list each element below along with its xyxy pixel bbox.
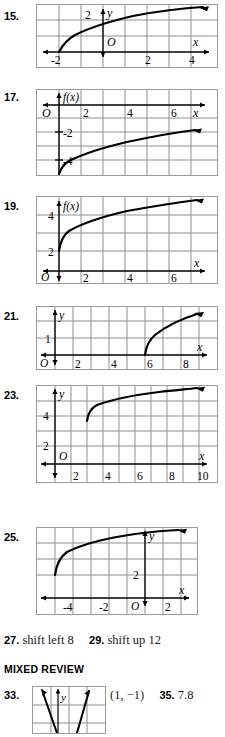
answers-27-29-row: 27. shift left 8 29. shift up 12 xyxy=(4,633,161,648)
x-tick-label-2: 2 xyxy=(73,470,79,482)
x-tick-label-neg4: -4 xyxy=(63,601,73,613)
exercise-33-svg: y xyxy=(33,687,105,733)
answers-33-35-text: (1, −1) 35. 7.8 xyxy=(110,688,193,703)
x-axis-label: x xyxy=(198,449,205,463)
exercise-25-svg: y O x 2 -4 -2 2 xyxy=(37,528,197,614)
answer-33-number-wrap: 33. xyxy=(4,688,19,703)
exercise-25-number: 25. xyxy=(4,531,19,543)
exercise-21-number: 21. xyxy=(4,310,19,322)
axes xyxy=(43,201,205,281)
answer-27-number: 27. xyxy=(4,634,19,646)
x-tick-label-6: 6 xyxy=(137,470,143,482)
exercise-17-number: 17. xyxy=(4,91,19,103)
y-axis-label: y xyxy=(58,308,65,322)
y-tick-label-4: 4 xyxy=(48,210,54,222)
x-axis-label: x xyxy=(196,340,203,354)
x-tick-label-6: 6 xyxy=(147,358,153,369)
answer-29-number: 29. xyxy=(89,634,104,646)
origin-label-O: O xyxy=(40,357,49,369)
x-tick-label-4: 4 xyxy=(127,107,133,119)
x-tick-label-4: 4 xyxy=(189,54,195,66)
x-tick-label-2: 2 xyxy=(165,601,171,613)
origin-label-O: O xyxy=(59,450,68,462)
y-tick-label-neg4: -4 xyxy=(63,155,73,167)
exercise-33-graph: y xyxy=(32,686,106,734)
exercise-23: 23. xyxy=(4,385,222,485)
mixed-review-heading: MIXED REVIEW xyxy=(4,663,84,675)
exercise-23-svg: y O x 2 4 2 4 6 8 10 xyxy=(37,386,217,482)
axes xyxy=(43,9,209,57)
axes xyxy=(41,389,207,478)
answer-35-number: 35. xyxy=(159,689,174,701)
exercise-21-graph: y O x 1 2 4 6 8 xyxy=(36,306,218,370)
exercise-19: 19. xyxy=(4,196,222,286)
x-tick-label-2: 2 xyxy=(83,107,89,119)
exercise-19-graph: f(x) O x 2 4 2 4 6 xyxy=(36,196,218,284)
x-tick-label-8: 8 xyxy=(183,358,189,369)
exercise-25-graph: y O x 2 -4 -2 2 xyxy=(36,527,198,615)
exercise-15: 15. xyxy=(4,4,222,70)
origin-label-O: O xyxy=(131,600,140,612)
x-axis-label: x xyxy=(192,35,199,49)
exercise-19-curve xyxy=(59,200,197,251)
x-tick-label-2: 2 xyxy=(145,54,151,66)
y-tick-label-2: 2 xyxy=(48,246,54,258)
x-tick-label-10: 10 xyxy=(197,470,209,482)
exercise-17-svg: f(x) O x 2 4 6 -2 -4 xyxy=(37,90,217,175)
x-tick-label-2: 2 xyxy=(75,358,81,369)
x-tick-label-neg2: -2 xyxy=(99,601,109,613)
exercise-21: 21. xyxy=(4,306,222,372)
answer-27-text: shift left 8 xyxy=(22,633,73,647)
exercise-25: 25. xyxy=(4,527,222,617)
x-tick-label-neg2: -2 xyxy=(51,54,61,66)
y-axis-label: y xyxy=(106,6,113,20)
x-tick-label-2: 2 xyxy=(83,272,89,283)
grid-lines xyxy=(37,528,197,614)
y-axis-label-fx: f(x) xyxy=(63,200,79,213)
y-tick-label-2: 2 xyxy=(85,9,91,21)
answer-33-value: (1, −1) xyxy=(110,688,144,702)
axes xyxy=(41,531,189,606)
exercise-15-number: 15. xyxy=(4,10,19,22)
x-axis-label: x xyxy=(192,106,199,120)
exercise-19-svg: f(x) O x 2 4 2 4 6 xyxy=(37,197,217,283)
y-tick-label-neg2: -2 xyxy=(63,127,73,139)
origin-label-O: O xyxy=(42,106,51,120)
origin-label-O: O xyxy=(107,35,116,49)
x-tick-label-8: 8 xyxy=(169,470,175,482)
origin-label-O: O xyxy=(41,271,50,283)
axes xyxy=(56,689,61,733)
answer-33-number: 33. xyxy=(4,689,19,701)
y-tick-label-1: 1 xyxy=(45,333,51,345)
exercise-23-graph: y O x 2 4 2 4 6 8 10 xyxy=(36,385,218,483)
exercise-17-curve xyxy=(59,130,195,174)
x-tick-label-6: 6 xyxy=(171,272,177,283)
y-tick-label-2: 2 xyxy=(43,440,49,452)
y-axis-label: y xyxy=(58,387,65,401)
x-axis-label: x xyxy=(193,256,200,270)
answer-29-text: shift up 12 xyxy=(107,633,160,647)
x-tick-label-4: 4 xyxy=(111,358,117,369)
x-tick-label-4: 4 xyxy=(105,470,111,482)
x-axis-label: x xyxy=(178,583,185,597)
x-tick-label-4: 4 xyxy=(127,272,133,283)
y-axis-label: y xyxy=(148,529,155,543)
y-tick-label-2: 2 xyxy=(133,569,139,581)
y-axis-label-fx: f(x) xyxy=(63,91,79,104)
exercise-23-number: 23. xyxy=(4,389,19,401)
exercise-19-number: 19. xyxy=(4,200,19,212)
exercise-21-curve xyxy=(145,314,197,355)
answer-35-text: 7.8 xyxy=(178,688,194,702)
exercise-15-graph: O y x 2 -2 2 4 xyxy=(36,4,218,68)
y-axis-label: y xyxy=(60,691,66,703)
exercise-15-svg: O y x 2 -2 2 4 xyxy=(37,5,217,67)
exercise-25-curve xyxy=(55,530,179,575)
x-tick-label-6: 6 xyxy=(171,107,177,119)
exercise-17: 17. xyxy=(4,89,222,177)
y-tick-label-4: 4 xyxy=(43,410,49,422)
exercise-21-svg: y O x 1 2 4 6 8 xyxy=(37,307,217,369)
exercise-17-graph: f(x) O x 2 4 6 -2 -4 xyxy=(36,89,218,176)
